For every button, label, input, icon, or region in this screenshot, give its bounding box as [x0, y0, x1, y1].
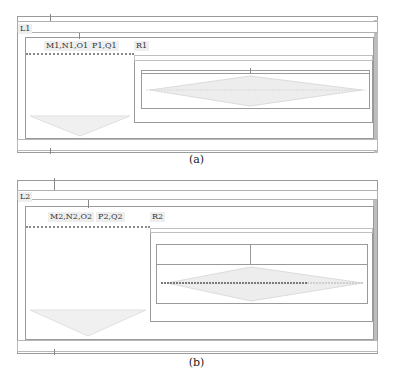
- branch-box-left: [156, 244, 251, 265]
- dotted-connector: [26, 226, 150, 228]
- caption-b: (b): [0, 356, 393, 369]
- exit-connector: [54, 349, 55, 355]
- branch-box-right: [250, 244, 368, 265]
- header-bar: [17, 190, 378, 200]
- loop-label: L2: [18, 192, 32, 202]
- group1-label: M2,N2,O2: [48, 212, 94, 222]
- inner-connector: [88, 200, 89, 208]
- region-label: R2: [150, 212, 165, 222]
- bottom-bar: [17, 340, 378, 352]
- diamond-left: [26, 306, 150, 340]
- diamond-r2: [157, 265, 367, 303]
- group2-label: P2,Q2: [96, 212, 125, 222]
- figure-b: L2 M2,N2,O2 P2,Q2 R2 (b): [0, 0, 393, 389]
- region-header: [150, 228, 373, 233]
